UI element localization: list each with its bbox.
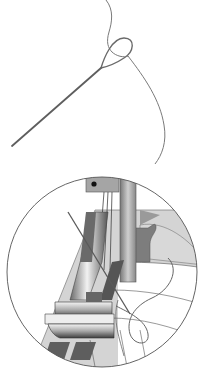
- thread-tail: [128, 56, 165, 164]
- clamp-screw: [91, 181, 96, 186]
- thread-through-eye: [112, 52, 128, 57]
- needle-eye: [101, 38, 132, 68]
- presser-bar: [120, 172, 136, 282]
- needle-clamp: [86, 168, 119, 192]
- needle-and-thread: [12, 0, 165, 164]
- magnifier-circle: [7, 168, 204, 372]
- illustration: Needle and thread illustration with magn…: [0, 0, 204, 372]
- thread-top: [106, 0, 112, 52]
- needle-shaft: [12, 68, 101, 146]
